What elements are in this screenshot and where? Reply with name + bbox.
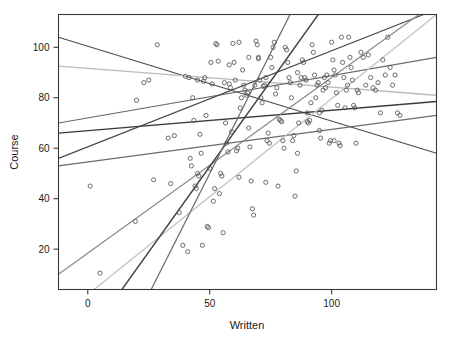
data-point xyxy=(186,250,190,254)
data-point xyxy=(378,111,382,115)
data-point xyxy=(241,68,245,72)
data-point xyxy=(369,75,373,79)
data-point xyxy=(337,141,341,145)
data-point xyxy=(220,174,224,178)
data-point xyxy=(300,58,304,62)
data-point xyxy=(284,48,288,52)
data-point xyxy=(197,174,201,178)
data-point xyxy=(341,60,345,64)
data-point xyxy=(311,50,315,54)
data-point xyxy=(155,43,159,47)
data-point xyxy=(98,271,102,275)
data-point xyxy=(269,55,273,59)
data-point xyxy=(326,81,330,85)
y-tick-label: 40 xyxy=(38,193,50,204)
data-point xyxy=(248,145,252,149)
data-point xyxy=(276,184,280,188)
regression-line xyxy=(59,115,437,165)
data-point xyxy=(217,192,221,196)
data-point xyxy=(289,96,293,100)
x-axis-title: Written xyxy=(230,319,265,331)
data-point xyxy=(188,156,192,160)
data-point xyxy=(270,65,274,69)
data-point xyxy=(287,75,291,79)
data-point xyxy=(250,207,254,211)
data-point xyxy=(247,55,251,59)
regression-line xyxy=(94,15,436,290)
regression-line xyxy=(59,102,437,134)
data-point xyxy=(194,186,198,190)
data-point xyxy=(273,92,277,96)
data-point xyxy=(321,88,325,92)
data-point xyxy=(282,146,286,150)
data-point xyxy=(133,219,137,223)
data-point xyxy=(134,98,138,102)
data-point xyxy=(342,75,346,79)
data-point xyxy=(351,103,355,107)
data-point xyxy=(371,86,375,90)
data-point xyxy=(204,113,208,117)
data-point xyxy=(281,139,285,143)
data-point xyxy=(275,86,279,90)
data-point xyxy=(252,213,256,217)
data-point xyxy=(227,63,231,67)
data-point xyxy=(314,96,318,100)
data-point xyxy=(142,81,146,85)
data-point xyxy=(310,43,314,47)
data-point xyxy=(294,169,298,173)
data-point xyxy=(376,81,380,85)
data-point xyxy=(88,184,92,188)
data-point xyxy=(286,60,290,64)
data-point xyxy=(247,126,251,130)
data-point xyxy=(316,81,320,85)
data-point xyxy=(356,91,360,95)
data-point xyxy=(383,73,387,77)
data-point xyxy=(232,60,236,64)
data-point xyxy=(266,131,270,135)
data-point xyxy=(152,178,156,182)
data-point xyxy=(228,86,232,90)
data-point xyxy=(395,111,399,115)
data-point xyxy=(267,141,271,145)
data-point xyxy=(295,70,299,74)
data-point xyxy=(237,175,241,179)
data-point xyxy=(231,41,235,45)
data-point xyxy=(249,179,253,183)
x-tick-label: 100 xyxy=(323,298,340,309)
data-point xyxy=(265,139,269,143)
data-point xyxy=(172,134,176,138)
y-tick-label: 20 xyxy=(38,244,50,255)
data-point xyxy=(222,81,226,85)
data-point xyxy=(332,68,336,72)
data-point xyxy=(166,136,170,140)
y-axis-ticks: 20406080100 xyxy=(33,42,59,255)
data-point xyxy=(359,50,363,54)
data-point xyxy=(330,40,334,44)
data-point xyxy=(398,113,402,117)
data-point xyxy=(339,35,343,39)
data-point xyxy=(327,141,331,145)
data-point xyxy=(309,101,313,105)
scatter-plot-figure: 050100 20406080100 Written Course xyxy=(0,0,453,339)
data-point xyxy=(209,60,213,64)
data-point xyxy=(319,136,323,140)
y-axis-title: Course xyxy=(8,134,20,169)
x-tick-label: 0 xyxy=(85,298,91,309)
data-point xyxy=(169,181,173,185)
data-point xyxy=(291,139,295,143)
x-axis-ticks: 050100 xyxy=(85,290,340,309)
data-point xyxy=(331,58,335,62)
data-point xyxy=(348,55,352,59)
data-point xyxy=(349,65,353,69)
regression-line xyxy=(59,15,424,159)
data-point xyxy=(234,149,238,153)
y-tick-label: 100 xyxy=(33,42,50,53)
data-point xyxy=(181,243,185,247)
y-tick-label: 80 xyxy=(38,92,50,103)
data-point xyxy=(236,146,240,150)
data-point xyxy=(255,43,259,47)
data-point xyxy=(295,151,299,155)
data-point xyxy=(347,35,351,39)
data-point xyxy=(237,40,241,44)
data-point xyxy=(198,132,202,136)
